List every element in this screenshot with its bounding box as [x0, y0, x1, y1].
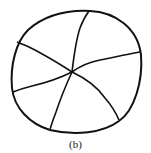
divider-line-right [72, 52, 140, 72]
divider-line-left-upper [17, 42, 72, 72]
divider-line-bottom-right [72, 72, 119, 120]
divider-line-left-lower [13, 72, 72, 92]
figure-caption: (b) [0, 138, 151, 150]
divider-line-top [72, 11, 89, 72]
diagram-figure [0, 0, 151, 138]
outer-circle [12, 11, 142, 133]
